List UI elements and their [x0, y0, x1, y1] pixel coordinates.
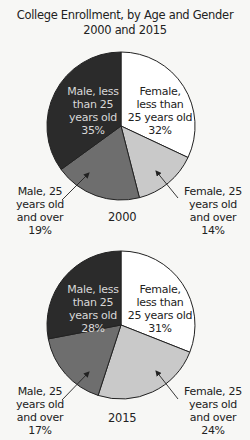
year-label-2000: 2000 — [108, 210, 136, 224]
year-label-2015: 2015 — [108, 411, 136, 425]
label-2015-female-25-plus: Female, 25 years old and over 24% — [176, 385, 250, 437]
label-2000-male-25-plus: Male, 25 years old and over 19% — [8, 185, 72, 237]
label-2015-male-under-25: Male, less than 25 years old 28% — [60, 283, 126, 335]
label-2000-male-under-25: Male, less than 25 years old 35% — [60, 85, 126, 137]
label-2000-female-25-plus: Female, 25 years old and over 14% — [176, 185, 250, 237]
label-2000-female-under-25: Female, less than 25 years old 32% — [125, 85, 195, 137]
label-2015-female-under-25: Female, less than 25 years old 31% — [125, 283, 195, 335]
label-2015-male-25-plus: Male, 25 years old and over 17% — [8, 385, 72, 437]
